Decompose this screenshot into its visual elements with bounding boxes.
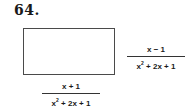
problem-number: 64. [14, 2, 40, 18]
height-denominator: x2 + 2x + 1 [127, 57, 185, 72]
denominator-rest: + 2x + 1 [144, 62, 176, 71]
denominator-rest: + 2x + 1 [59, 99, 91, 108]
height-label-fraction: x − 1 x2 + 2x + 1 [127, 45, 185, 72]
width-denominator: x2 + 2x + 1 [42, 94, 100, 109]
width-label-fraction: x + 1 x2 + 2x + 1 [42, 82, 100, 109]
width-numerator: x + 1 [42, 82, 100, 93]
height-numerator: x − 1 [127, 45, 185, 56]
rectangle-figure [23, 28, 115, 75]
